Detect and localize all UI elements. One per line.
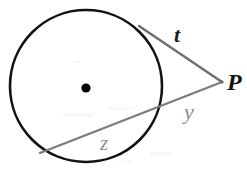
geometry-figure: t P y z	[0, 0, 247, 179]
tangent-line	[139, 26, 222, 82]
circle-center-dot	[81, 83, 90, 92]
external-point-label: P	[227, 70, 242, 94]
secant-chord-label: z	[100, 133, 108, 154]
tangent-length-label: t	[174, 24, 180, 46]
scan-artifacts	[63, 61, 172, 163]
geometry-canvas	[0, 0, 247, 179]
secant-line	[40, 82, 222, 153]
external-secant-segment-label: y	[184, 101, 194, 123]
external-point-vertex	[220, 80, 223, 83]
